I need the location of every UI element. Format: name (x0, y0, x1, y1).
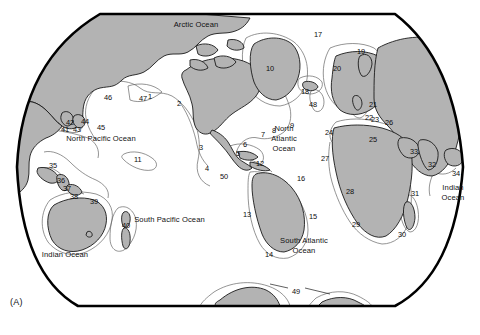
map-number-label-30: 30 (398, 231, 406, 239)
map-number-label-5: 5 (236, 150, 240, 158)
ocean-label-arctic: Arctic Ocean (152, 20, 240, 30)
map-number-label-1: 1 (148, 93, 152, 101)
map-number-label-27: 27 (321, 155, 329, 163)
map-number-label-12: 12 (256, 160, 264, 168)
ocean-label-indian-east-line2: Ocean (430, 193, 476, 203)
map-number-label-19: 19 (357, 48, 365, 56)
ocean-label-north-atlantic-line3: Ocean (262, 144, 306, 154)
map-number-label-23: 23 (371, 116, 379, 124)
map-number-label-6: 6 (243, 141, 247, 149)
map-number-label-13: 13 (243, 211, 251, 219)
map-number-label-20: 20 (333, 65, 341, 73)
map-number-label-2: 2 (177, 100, 181, 108)
world-map-graphic (0, 0, 480, 335)
map-number-label-43: 43 (73, 126, 81, 134)
map-number-label-14: 14 (265, 251, 273, 259)
map-number-label-49: 49 (292, 288, 300, 296)
map-number-label-18: 18 (301, 88, 309, 96)
ocean-label-north-atlantic-line2: Atlantic (262, 134, 306, 144)
map-number-label-10: 10 (266, 65, 274, 73)
map-number-label-21: 21 (369, 101, 377, 109)
ocean-label-indian-east: Indian Ocean (430, 183, 476, 203)
map-number-label-28: 28 (346, 188, 354, 196)
map-number-label-50: 50 (220, 173, 228, 181)
map-number-label-44: 44 (81, 118, 89, 126)
map-number-label-8: 8 (272, 127, 276, 135)
map-number-label-25: 25 (369, 136, 377, 144)
map-number-label-3: 3 (199, 144, 203, 152)
map-number-label-41: 41 (61, 126, 69, 134)
map-number-label-34: 34 (452, 170, 460, 178)
map-number-label-38: 38 (70, 193, 78, 201)
map-number-label-15: 15 (309, 213, 317, 221)
map-number-label-7: 7 (261, 131, 265, 139)
map-number-label-40: 40 (122, 222, 130, 230)
world-map-figure: Arctic Ocean North Pacific Ocean North A… (0, 0, 480, 335)
ocean-label-indian-east-line1: Indian (430, 183, 476, 193)
ocean-label-indian-west: Indian Ocean (26, 250, 104, 260)
map-number-label-4: 4 (205, 165, 209, 173)
map-number-label-45: 45 (97, 124, 105, 132)
panel-label: (A) (10, 297, 23, 307)
map-number-label-17: 17 (314, 31, 322, 39)
map-number-label-16: 16 (297, 175, 305, 183)
map-number-label-29: 29 (352, 221, 360, 229)
ocean-label-north-atlantic: North Atlantic Ocean (262, 124, 306, 154)
map-number-label-39: 39 (90, 198, 98, 206)
map-number-label-24: 24 (325, 129, 333, 137)
map-number-label-9: 9 (290, 122, 294, 130)
map-number-label-31: 31 (411, 190, 419, 198)
map-number-label-33: 33 (410, 148, 418, 156)
map-number-label-48: 48 (309, 101, 317, 109)
map-number-label-11: 11 (134, 156, 142, 164)
ocean-label-north-pacific: North Pacific Ocean (45, 134, 157, 144)
map-number-label-32: 32 (428, 161, 436, 169)
map-number-label-35: 35 (49, 162, 57, 170)
map-number-label-47: 47 (139, 95, 147, 103)
ocean-label-north-atlantic-line1: North (262, 124, 306, 134)
ocean-label-south-atlantic-line1: South Atlantic (259, 236, 349, 246)
map-number-label-46: 46 (104, 94, 112, 102)
map-number-label-26: 26 (385, 119, 393, 127)
